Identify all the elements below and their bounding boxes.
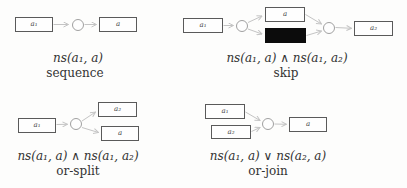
transition-box-a1: a₁ <box>205 104 245 119</box>
pattern-or-join: a₁ a₂ a ns(a₁, a) ∨ ns(a₂, a) or-join <box>0 0 407 188</box>
transition-box-a2: a₂ <box>211 125 251 139</box>
transition-label: a <box>306 121 310 128</box>
transition-label: a₂ <box>228 129 235 136</box>
transition-box-a: a <box>289 117 327 132</box>
figure-canvas: a₁ a ns(a₁, a) sequence a₁ a a₂ ns(a₁, a… <box>0 0 407 188</box>
place-circle <box>262 118 274 130</box>
caption-or-join: or-join <box>248 165 288 178</box>
transition-label: a₁ <box>222 108 229 115</box>
formula-or-join: ns(a₁, a) ∨ ns(a₂, a) <box>210 150 326 163</box>
